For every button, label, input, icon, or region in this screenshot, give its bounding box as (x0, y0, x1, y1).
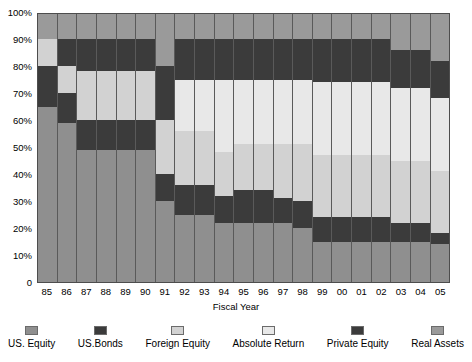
bar-segment (215, 152, 234, 195)
bar-96[interactable] (254, 14, 274, 282)
bar-92[interactable] (175, 14, 195, 282)
bar-segment (372, 82, 391, 155)
legend-item[interactable]: Absolute Return (231, 326, 307, 349)
y-axis: 010%20%30%40%50%60%70%80%90%100% (0, 0, 36, 290)
bar-segment (332, 39, 351, 82)
bar-segment (175, 185, 194, 215)
legend-item[interactable]: US. Equity (6, 326, 57, 349)
bar-segment (293, 39, 312, 80)
bar-segment (175, 80, 194, 131)
bar-segment (58, 66, 77, 93)
bar-segment (254, 14, 273, 39)
bar-segment (411, 88, 430, 161)
bar-89[interactable] (117, 14, 137, 282)
bar-93[interactable] (195, 14, 215, 282)
bar-91[interactable] (156, 14, 176, 282)
bar-segment (431, 244, 450, 282)
x-axis-tick: 01 (352, 285, 372, 299)
bar-segment (77, 71, 96, 120)
bar-segment (215, 80, 234, 153)
x-axis-tick: 99 (312, 285, 332, 299)
bar-segment (391, 242, 410, 283)
bar-segment (274, 14, 293, 39)
legend-label: Foreign Equity (145, 338, 209, 349)
y-axis-tick: 20% (13, 224, 32, 234)
x-axis-tick: 98 (293, 285, 313, 299)
bar-02[interactable] (372, 14, 392, 282)
bar-segment (254, 39, 273, 80)
bar-94[interactable] (215, 14, 235, 282)
bar-segment (156, 14, 175, 66)
bar-05[interactable] (431, 14, 450, 282)
bar-segment (391, 88, 410, 161)
bar-85[interactable] (38, 14, 58, 282)
x-axis-tick: 04 (411, 285, 431, 299)
bar-88[interactable] (97, 14, 117, 282)
x-axis-tick: 90 (135, 285, 155, 299)
bar-97[interactable] (274, 14, 294, 282)
bar-segment (352, 14, 371, 39)
legend-item[interactable]: Private Equity (325, 326, 391, 349)
bar-segment (274, 39, 293, 80)
bar-segment (136, 71, 155, 120)
bar-segment (156, 120, 175, 174)
bar-86[interactable] (58, 14, 78, 282)
bar-segment (332, 242, 351, 283)
bar-segment (411, 50, 430, 88)
bar-segment (431, 14, 450, 61)
bar-01[interactable] (352, 14, 372, 282)
bar-00[interactable] (332, 14, 352, 282)
bar-segment (293, 228, 312, 282)
bar-98[interactable] (293, 14, 313, 282)
bar-segment (156, 174, 175, 201)
bar-segment (372, 39, 391, 82)
x-axis-tick: 05 (430, 285, 450, 299)
legend-item[interactable]: Real Assets (409, 326, 466, 349)
legend-label: Absolute Return (233, 338, 305, 349)
legend-swatch-icon (94, 326, 107, 335)
stacked-bar-chart: 010%20%30%40%50%60%70%80%90%100% 8586878… (0, 0, 472, 362)
bar-segment (352, 242, 371, 283)
x-axis-tick: 86 (57, 285, 77, 299)
bar-segment (372, 14, 391, 39)
legend-item[interactable]: Foreign Equity (143, 326, 211, 349)
bar-segment (195, 80, 214, 131)
bar-03[interactable] (391, 14, 411, 282)
legend-label: Private Equity (327, 338, 389, 349)
bar-90[interactable] (136, 14, 156, 282)
bar-segment (234, 144, 253, 190)
bar-segment (274, 144, 293, 198)
bar-segment (313, 217, 332, 241)
bar-04[interactable] (411, 14, 431, 282)
y-axis-tick: 90% (13, 35, 32, 45)
bar-segment (313, 14, 332, 39)
bar-segment (77, 150, 96, 282)
y-axis-tick: 50% (13, 143, 32, 153)
bar-segment (411, 14, 430, 50)
bar-segment (313, 82, 332, 155)
legend-item[interactable]: US.Bonds (76, 326, 125, 349)
bar-segment (117, 71, 136, 120)
bar-segment (274, 223, 293, 282)
bar-segment (332, 155, 351, 217)
bar-segment (254, 80, 273, 145)
bar-segment (313, 242, 332, 283)
bar-segment (38, 39, 57, 66)
bar-segment (332, 82, 351, 155)
bar-segment (234, 190, 253, 222)
bar-segment (97, 39, 116, 71)
bar-segment (411, 242, 430, 283)
y-axis-tick: 10% (13, 251, 32, 261)
bar-95[interactable] (234, 14, 254, 282)
bar-segment (195, 14, 214, 39)
bar-segment (352, 155, 371, 217)
bar-segment (372, 155, 391, 217)
bar-87[interactable] (77, 14, 97, 282)
x-axis-tick: 91 (155, 285, 175, 299)
bar-99[interactable] (313, 14, 333, 282)
bar-segment (117, 150, 136, 282)
bar-segment (136, 39, 155, 71)
bar-segment (38, 66, 57, 107)
bar-segment (77, 120, 96, 150)
x-axis-tick: 03 (391, 285, 411, 299)
